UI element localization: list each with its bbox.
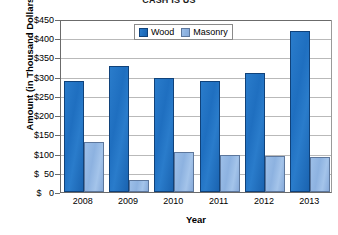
bar-masonry-2011 [220, 155, 240, 192]
legend-entry-masonry: Masonry [181, 27, 228, 37]
y-tick-label: $200 [8, 111, 54, 121]
x-axis-title: Year [60, 214, 332, 225]
legend-entry-wood: Wood [139, 27, 174, 37]
bar-wood-2009 [109, 66, 129, 192]
y-tick-label: $ 0 [8, 188, 54, 198]
chart-legend: Wood Masonry [134, 24, 233, 40]
bar-masonry-2012 [265, 156, 285, 192]
bar-masonry-2013 [310, 157, 330, 192]
y-tick-label: $450 [8, 15, 54, 25]
legend-swatch-wood-icon [139, 28, 148, 37]
legend-swatch-masonry-icon [181, 28, 190, 37]
bar-masonry-2010 [174, 152, 194, 192]
bar-masonry-2008 [84, 142, 104, 192]
plot-area [60, 20, 332, 193]
bar-wood-2012 [245, 73, 265, 192]
y-tick-label: $400 [8, 34, 54, 44]
bar-wood-2011 [200, 81, 220, 192]
y-tick-label: $ 50 [8, 169, 54, 179]
y-tick-label: $300 [8, 73, 54, 83]
gridline [61, 20, 331, 21]
y-tick-label: $100 [8, 150, 54, 160]
y-tick-mark [55, 193, 60, 194]
legend-label-wood: Wood [151, 27, 174, 37]
bar-chart: CASH IS US Amount (in Thousand Dollars) … [0, 0, 338, 235]
x-tick-label-2010: 2010 [151, 196, 195, 206]
bar-wood-2008 [64, 81, 84, 192]
y-tick-label: $150 [8, 130, 54, 140]
x-tick-label-2011: 2011 [197, 196, 241, 206]
x-tick-label-2012: 2012 [242, 196, 286, 206]
y-tick-label: $250 [8, 92, 54, 102]
y-tick-label: $350 [8, 53, 54, 63]
bar-masonry-2009 [129, 180, 149, 192]
chart-title: CASH IS US [0, 0, 338, 6]
legend-label-masonry: Masonry [193, 27, 228, 37]
x-tick-label-2013: 2013 [287, 196, 331, 206]
bar-wood-2010 [154, 78, 174, 192]
bar-wood-2013 [290, 31, 310, 192]
x-tick-label-2009: 2009 [106, 196, 150, 206]
x-tick-label-2008: 2008 [61, 196, 105, 206]
